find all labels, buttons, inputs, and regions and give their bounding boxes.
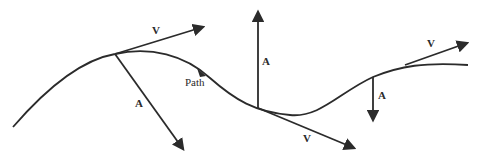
acceleration-label-1: A [135, 97, 143, 109]
trajectory-path [13, 51, 468, 127]
path-label: Path [185, 76, 205, 88]
acceleration-label-2: A [262, 55, 270, 67]
acceleration-vector-1 [115, 54, 183, 149]
velocity-label-1: V [152, 24, 160, 36]
velocity-vector-3 [405, 43, 467, 65]
motion-path-diagram: V A Path A V A V [0, 0, 479, 162]
velocity-label-3: V [427, 37, 435, 49]
acceleration-label-3: A [378, 89, 386, 101]
velocity-label-2: V [303, 132, 311, 144]
